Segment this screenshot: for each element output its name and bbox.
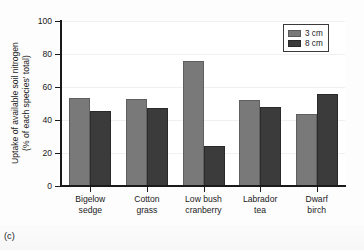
legend-entry-3cm: 3 cm (288, 28, 323, 38)
legend-swatch-8cm (288, 40, 301, 47)
x-category-label-line: Cotton (119, 194, 176, 205)
y-tick-mark (55, 87, 61, 88)
y-tick-mark (55, 153, 61, 154)
y-tick-mark (55, 54, 61, 55)
y-tick-label-wrap: 60 (22, 82, 52, 92)
y-tick-mark (55, 120, 61, 121)
bar-3cm (126, 99, 147, 186)
x-category-label-line: grass (119, 205, 176, 216)
x-category-label-line: Bigelow (62, 194, 119, 205)
y-axis-title-line-1: Uptake of available soil nitrogen (10, 42, 20, 164)
legend-swatch-3cm (288, 30, 301, 37)
y-tick-label: 40 (26, 115, 52, 125)
panel-caption: (c) (4, 231, 15, 241)
bar-3cm (296, 114, 317, 186)
y-tick-label: 100 (26, 16, 52, 26)
y-tick-label: 20 (26, 148, 52, 158)
legend-label-8cm: 8 cm (305, 39, 323, 48)
x-category-label-line: Dwarf (288, 194, 345, 205)
y-tick-label: 0 (26, 181, 52, 191)
x-category-label: Cottongrass (119, 194, 176, 215)
gridline (62, 21, 345, 22)
bar-8cm (90, 111, 111, 186)
y-axis-line (60, 20, 62, 187)
x-tick-mark (147, 187, 148, 192)
y-tick-label: 80 (26, 49, 52, 59)
x-category-label-line: tea (232, 205, 289, 216)
bar-3cm (239, 100, 260, 186)
x-category-label-line: birch (288, 205, 345, 216)
bar-8cm (147, 108, 168, 186)
bar-3cm (69, 98, 90, 186)
x-category-label: Labradortea (232, 194, 289, 215)
figure-panel-c: Uptake of available soil nitrogen (% of … (0, 0, 364, 250)
y-axis-title: Uptake of available soil nitrogen (% of … (10, 8, 32, 198)
gridline (62, 54, 345, 55)
y-tick-mark (55, 21, 61, 22)
bar-chart: Uptake of available soil nitrogen (% of … (0, 0, 364, 225)
y-tick-label: 60 (26, 82, 52, 92)
y-tick-label-wrap: 100 (22, 16, 52, 26)
legend-label-3cm: 3 cm (305, 29, 323, 38)
x-category-label-line: Labrador (232, 194, 289, 205)
bar-8cm (260, 107, 281, 186)
bar-8cm (204, 146, 225, 186)
x-category-label-line: cranberry (175, 205, 232, 216)
x-category-label: Dwarfbirch (288, 194, 345, 215)
y-tick-label-wrap: 20 (22, 148, 52, 158)
y-axis-title-line-2: (% of each species' total) (21, 8, 32, 198)
x-category-label-line: sedge (62, 205, 119, 216)
bar-8cm (317, 94, 338, 186)
x-category-label: Low bushcranberry (175, 194, 232, 215)
x-tick-mark (204, 187, 205, 192)
x-category-label: Bigelowsedge (62, 194, 119, 215)
legend-entry-8cm: 8 cm (288, 38, 323, 48)
x-tick-mark (317, 187, 318, 192)
gridline (62, 87, 345, 88)
y-tick-label-wrap: 40 (22, 115, 52, 125)
x-category-label-line: Low bush (175, 194, 232, 205)
y-tick-label-wrap: 0 (22, 181, 52, 191)
x-tick-mark (90, 187, 91, 192)
x-tick-mark (260, 187, 261, 192)
y-tick-mark (55, 186, 61, 187)
legend: 3 cm 8 cm (283, 24, 329, 52)
bar-3cm (183, 61, 204, 186)
y-tick-label-wrap: 80 (22, 49, 52, 59)
